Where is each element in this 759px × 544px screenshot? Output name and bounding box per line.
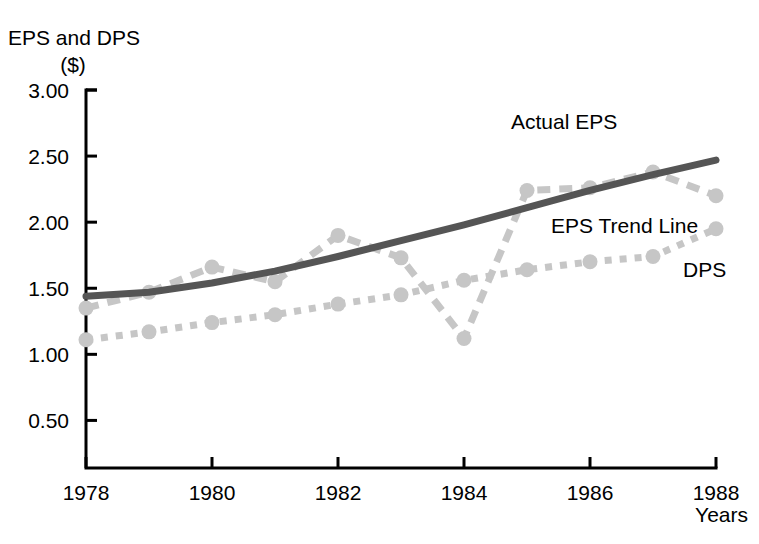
- x-axis-tick-labels: 197819801982198419861988: [63, 481, 740, 504]
- x-tick-label: 1984: [441, 481, 488, 504]
- y-tick-label: 2.50: [28, 145, 69, 168]
- x-axis-title: Years: [695, 503, 748, 526]
- data-point-marker: [520, 183, 535, 198]
- y-tick-label: 1.50: [28, 277, 69, 300]
- data-point-marker: [457, 273, 472, 288]
- data-point-marker: [394, 287, 409, 302]
- data-point-marker: [394, 250, 409, 265]
- data-point-marker: [583, 254, 598, 269]
- data-point-marker: [709, 188, 724, 203]
- x-tick-label: 1978: [63, 481, 110, 504]
- data-point-marker: [646, 249, 661, 264]
- x-tick-label: 1986: [567, 481, 614, 504]
- data-point-marker: [709, 221, 724, 236]
- x-tick-label: 1982: [315, 481, 362, 504]
- data-point-marker: [205, 260, 220, 275]
- annotation-layer: Actual EPSEPS Trend LineDPS: [511, 110, 726, 281]
- y-tick-label: 0.50: [28, 409, 69, 432]
- y-tick-label: 1.00: [28, 343, 69, 366]
- y-tick-label: 2.00: [28, 211, 69, 234]
- annotation-dps: DPS: [683, 258, 726, 281]
- data-point-marker: [457, 331, 472, 346]
- y-tick-label: 3.00: [28, 79, 69, 102]
- data-point-marker: [331, 228, 346, 243]
- chart-container: EPS and DPS ($) 0.501.001.502.002.503.00…: [0, 0, 759, 544]
- x-tick-label: 1980: [189, 481, 236, 504]
- data-point-marker: [205, 315, 220, 330]
- data-point-marker: [268, 307, 283, 322]
- eps-dps-line-chart: EPS and DPS ($) 0.501.001.502.002.503.00…: [0, 0, 759, 544]
- series-layer: [79, 160, 724, 347]
- annotation-actual-eps: Actual EPS: [511, 110, 617, 133]
- data-point-marker: [79, 301, 94, 316]
- x-axis-tick-marks: [86, 457, 716, 468]
- y-axis-title-line2: ($): [60, 53, 86, 76]
- y-axis-tick-marks: [86, 90, 97, 420]
- data-point-marker: [79, 332, 94, 347]
- data-point-marker: [142, 324, 157, 339]
- data-point-marker: [520, 262, 535, 277]
- data-point-marker: [331, 297, 346, 312]
- y-axis-title-line1: EPS and DPS: [8, 26, 140, 49]
- x-tick-label: 1988: [693, 481, 740, 504]
- y-axis-tick-labels: 0.501.001.502.002.503.00: [28, 79, 69, 432]
- annotation-eps-trend-line: EPS Trend Line: [551, 214, 698, 237]
- series-actual-eps: [79, 164, 724, 346]
- data-point-marker: [268, 274, 283, 289]
